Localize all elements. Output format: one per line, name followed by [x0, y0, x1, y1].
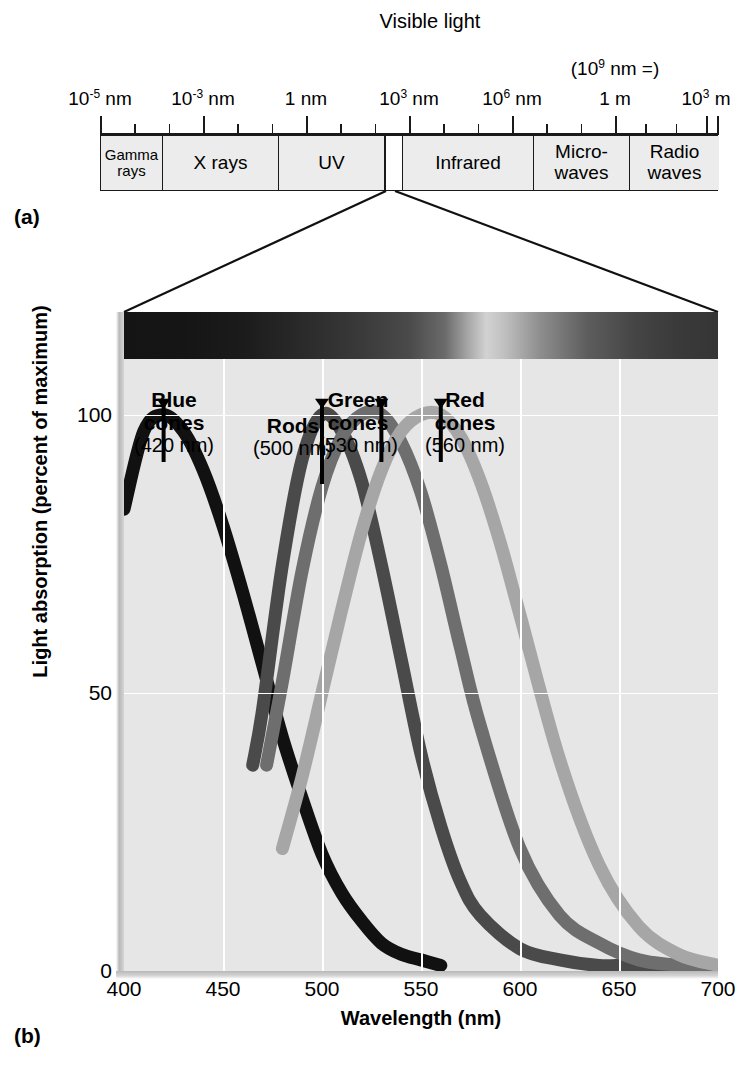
- gridline-vertical: [520, 359, 522, 971]
- x-tick-500: 500: [304, 977, 339, 1001]
- em-scale-label-1: 10-3 nm: [171, 88, 235, 110]
- gridline-vertical: [619, 359, 621, 971]
- gridline-vertical: [223, 359, 225, 971]
- y-tick-100: 100: [77, 403, 112, 427]
- annotation-red-cones: Redcones (560 nm): [425, 388, 505, 456]
- em-scale-label-2: 1 nm: [285, 88, 327, 110]
- em-band-gamma-line2: rays: [105, 163, 158, 179]
- annotation-blue-cones-name: Bluecones: [134, 388, 214, 434]
- annotation-green-cones: Greencones (530 nm): [318, 388, 398, 456]
- em-band-gamma-line1: Gamma: [105, 147, 158, 163]
- em-scale-label-5: 1 m: [599, 88, 631, 110]
- em-scale-label-0: 10-5 nm: [68, 88, 132, 110]
- em-band-gamma-rays: Gamma rays: [101, 136, 163, 190]
- visible-spectrum-gradient: [124, 312, 718, 359]
- x-tick-550: 550: [403, 977, 438, 1001]
- visible-light-caption: Visible light: [380, 10, 481, 33]
- annotation-red-cones-peak: (560 nm): [425, 434, 505, 456]
- callout-connector-lines: [0, 190, 756, 330]
- x-tick-600: 600: [502, 977, 537, 1001]
- annotation-blue-cones-peak: (420 nm): [134, 434, 214, 456]
- em-band-radio-waves-label: Radio waves: [630, 142, 719, 183]
- x-tick-450: 450: [205, 977, 240, 1001]
- em-band-microwaves: Micro- waves: [534, 136, 630, 190]
- em-band-uv-label: UV: [316, 153, 346, 174]
- em-band-uv: UV: [279, 136, 385, 190]
- em-meter-equivalence-note: (109 nm =): [571, 58, 660, 80]
- em-scale-label-4: 106 nm: [482, 88, 542, 110]
- x-axis-title: Wavelength (nm): [124, 1007, 718, 1030]
- em-band-x-rays-label: X rays: [192, 153, 250, 174]
- y-tick-50: 50: [89, 681, 112, 705]
- em-scale-label-6: 103 m: [682, 88, 731, 110]
- em-band-visible-light-gap: [385, 136, 403, 190]
- y-axis-tick-labels: 050100: [0, 359, 112, 971]
- gridline-vertical: [421, 359, 423, 971]
- em-band-infrared: Infrared: [403, 136, 534, 190]
- em-band-radio-waves: Radio waves: [630, 136, 719, 190]
- x-tick-400: 400: [106, 977, 141, 1001]
- em-tick-marks: [100, 113, 718, 135]
- em-scale-label-3: 103 nm: [379, 88, 439, 110]
- annotation-green-cones-peak: (530 nm): [318, 434, 398, 456]
- em-band-bar: Gamma rays X rays UV Infrared Micro- wav…: [100, 135, 718, 191]
- x-tick-700: 700: [700, 977, 735, 1001]
- plot-left-shadow: [116, 312, 124, 977]
- gridline-vertical: [718, 359, 720, 971]
- x-tick-650: 650: [601, 977, 636, 1001]
- em-band-microwaves-line2: waves: [555, 163, 609, 184]
- em-band-microwaves-line1: Micro-: [555, 142, 609, 163]
- annotation-red-cones-name: Redcones: [425, 388, 505, 434]
- annotation-blue-cones: Bluecones (420 nm): [134, 388, 214, 456]
- x-axis-tick-labels: 400450500550600650700: [124, 977, 718, 1007]
- em-scale-label-row: (109 nm =) 10-5 nm 10-3 nm 1 nm 103 nm 1…: [0, 0, 756, 115]
- visible-spectrum-gradient-bar: [124, 312, 718, 359]
- y-axis-title: Light absorption (percent of maximum): [29, 222, 52, 762]
- gridline-horizontal: [124, 693, 718, 695]
- em-band-x-rays: X rays: [163, 136, 279, 190]
- panel-label-b: (b): [14, 1024, 41, 1048]
- curve-red-cones: [282, 412, 718, 965]
- annotation-green-cones-name: Greencones: [318, 388, 398, 434]
- em-band-infrared-label: Infrared: [433, 153, 502, 174]
